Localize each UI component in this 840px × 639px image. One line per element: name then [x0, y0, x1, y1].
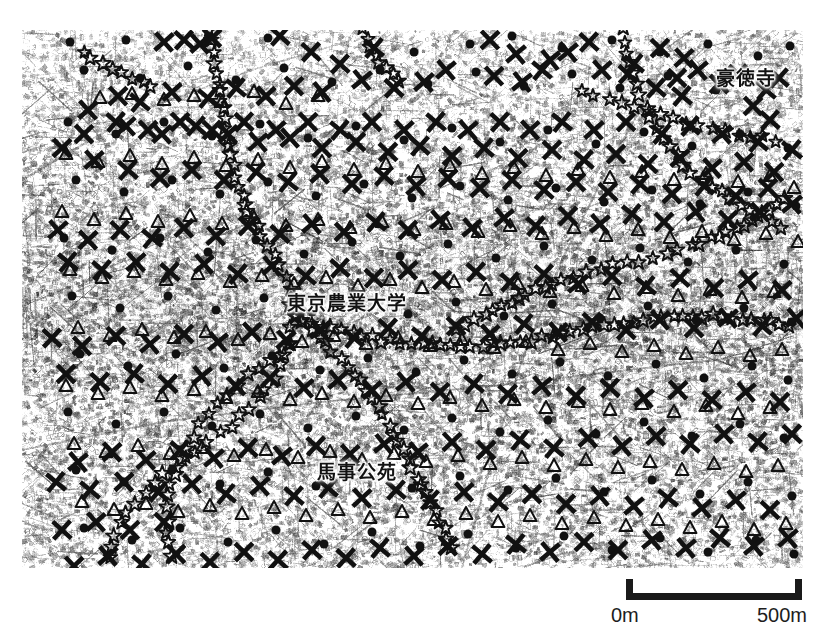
dot-marker: [790, 550, 799, 559]
cross-marker: [261, 369, 279, 387]
cross-marker: [80, 480, 99, 499]
cross-marker: [215, 171, 233, 189]
dot-marker: [508, 370, 517, 379]
cross-marker: [387, 481, 406, 500]
cross-marker: [491, 113, 509, 131]
cross-marker: [485, 67, 503, 85]
triangle-marker: [108, 503, 121, 515]
dot-marker: [616, 84, 625, 93]
triangle-marker: [68, 437, 81, 449]
dot-marker: [304, 424, 313, 433]
star-marker: [587, 89, 600, 101]
cross-marker: [307, 437, 325, 455]
cross-marker: [535, 265, 553, 283]
dot-marker: [448, 124, 457, 133]
cross-marker: [407, 177, 426, 196]
cross-marker: [412, 326, 431, 345]
dot-marker: [272, 526, 281, 535]
triangle-marker: [732, 175, 745, 187]
dot-marker: [548, 300, 557, 309]
cross-marker: [647, 427, 665, 445]
cross-marker: [744, 97, 762, 115]
dot-marker: [308, 308, 317, 317]
dot-marker: [168, 466, 177, 475]
cross-marker: [599, 183, 617, 201]
star-marker: [653, 106, 669, 121]
dot-marker: [396, 252, 405, 261]
triangle-marker: [184, 209, 197, 221]
cross-marker: [103, 443, 121, 461]
cross-marker: [771, 393, 789, 411]
dot-marker: [780, 260, 789, 269]
triangle-marker: [676, 463, 689, 475]
cross-marker: [613, 437, 632, 456]
cross-marker: [87, 513, 106, 532]
dot-marker: [644, 302, 653, 311]
dot-marker: [64, 118, 73, 127]
cross-marker: [575, 533, 593, 551]
triangle-marker: [324, 445, 337, 457]
cross-marker: [155, 33, 174, 52]
cross-marker: [269, 551, 287, 568]
scale-bar: [626, 578, 802, 600]
cross-marker: [171, 113, 189, 131]
cross-marker: [715, 425, 734, 444]
cross-marker: [109, 87, 127, 105]
dot-marker: [356, 296, 365, 305]
dot-marker: [786, 42, 795, 51]
cross-marker: [634, 388, 653, 407]
cross-marker: [302, 43, 320, 61]
cross-marker: [770, 69, 789, 88]
cross-marker: [175, 325, 193, 343]
triangle-marker: [672, 289, 685, 301]
triangle-marker: [216, 217, 229, 229]
cross-marker: [79, 101, 98, 120]
cross-marker: [427, 113, 446, 132]
cross-marker: [251, 477, 270, 496]
dot-marker: [108, 246, 117, 255]
dot-marker: [700, 374, 709, 383]
cross-marker: [201, 553, 219, 568]
dot-marker: [184, 62, 193, 71]
cross-marker: [543, 141, 561, 159]
cross-marker: [459, 121, 478, 140]
cross-marker: [79, 231, 97, 249]
triangle-marker: [652, 513, 665, 525]
star-marker: [631, 255, 646, 269]
cross-marker: [341, 445, 359, 463]
cross-marker: [229, 265, 248, 284]
cross-marker: [464, 374, 483, 393]
cross-marker: [471, 179, 489, 197]
dot-marker: [472, 68, 481, 77]
cross-marker: [719, 211, 737, 229]
cross-marker: [396, 372, 415, 391]
star-chain-layer: [78, 30, 796, 563]
cross-marker: [625, 497, 644, 516]
scale-bar-tick-end: [795, 579, 802, 600]
cross-marker: [370, 538, 389, 557]
cross-marker: [363, 381, 381, 399]
dot-marker: [448, 414, 457, 423]
dot-marker: [112, 420, 121, 429]
cross-marker: [580, 33, 598, 51]
cross-marker: [271, 225, 289, 243]
dot-marker: [704, 548, 713, 557]
cross-marker: [672, 86, 691, 105]
triangle-marker: [348, 395, 361, 407]
cross-marker: [330, 120, 349, 139]
dot-marker: [744, 478, 753, 487]
cross-marker: [671, 269, 689, 287]
cross-marker: [607, 145, 625, 163]
dot-marker: [316, 366, 325, 375]
star-marker: [618, 36, 631, 48]
cross-marker: [151, 169, 169, 187]
cross-marker: [111, 221, 129, 239]
cross-marker: [535, 181, 553, 199]
star-marker: [106, 528, 121, 542]
dot-marker: [122, 36, 131, 45]
dot-marker: [376, 66, 385, 75]
dot-marker: [508, 32, 517, 41]
dot-marker: [688, 142, 697, 151]
cross-marker: [53, 521, 71, 539]
dot-marker: [72, 176, 81, 185]
